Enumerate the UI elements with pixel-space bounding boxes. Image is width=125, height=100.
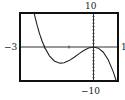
y-max-label: 10 [85, 1, 96, 11]
y-min-label: −10 [81, 86, 100, 96]
x-max-label: 1 [121, 42, 125, 52]
axes [20, 13, 118, 81]
graph-window [0, 0, 125, 100]
x-min-label: −3 [4, 42, 17, 52]
